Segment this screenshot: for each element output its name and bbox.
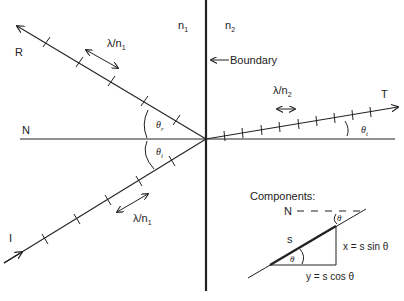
transmitted-ray [206,107,398,139]
angle-arc-reflected [144,110,148,138]
reflected-ray-label: R [15,46,23,58]
wave-diagram: n1 n2 Boundary N R λ/n1 θr I λ/n1 θi T λ… [0,0,404,301]
incident-arrow [4,252,22,263]
diagram-canvas: n1 n2 Boundary N R λ/n1 θr I λ/n1 θi T λ… [0,0,404,301]
incident-wavelength-label: λ/n1 [133,212,152,226]
incident-ray [4,139,206,263]
reflected-wavelength-arrow [86,50,118,68]
medium-label-n1: n1 [178,19,188,33]
inset-y-equation: y = s cos θ [306,271,355,282]
components-title: Components: [250,190,315,202]
inset-angle-label-top: θ [337,213,342,223]
inset-x-equation: x = s sin θ [343,241,389,252]
inset-angle-label-bottom: θ [290,254,295,264]
transmitted-wavelength-label: λ/n2 [273,84,292,98]
normal-label: N [22,124,30,136]
reflected-wavelength-label: λ/n1 [107,37,126,51]
inset-normal-label: N [284,205,292,217]
incident-wavelength-arrow [117,194,148,212]
transmitted-ray-label: T [381,88,388,100]
medium-label-n2: n2 [225,19,235,33]
inset-hyp-bold [270,226,336,265]
boundary-label: Boundary [230,54,278,66]
angle-arc-incident [145,141,154,169]
transmitted-angle-label: θt [361,124,369,138]
inset-hyp-label: s [287,233,293,245]
incident-angle-label: θi [156,146,163,160]
inset-angle-arc-bottom [300,249,304,264]
incident-ticks [42,156,175,244]
incident-ray-label: I [9,232,12,244]
reflected-angle-label: θr [156,119,164,133]
angle-arc-transmitted [345,121,348,136]
